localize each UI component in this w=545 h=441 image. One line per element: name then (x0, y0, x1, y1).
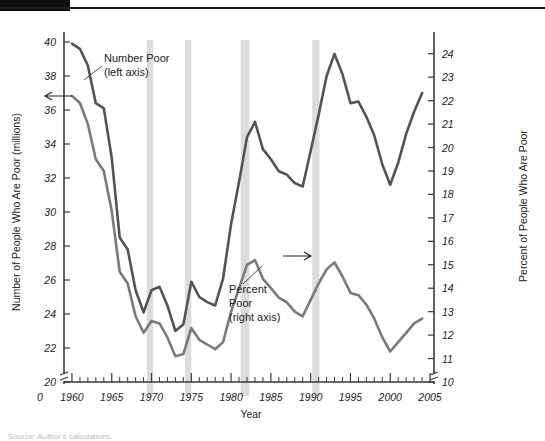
right-tick-label: 11 (442, 353, 453, 365)
right-tick-label: 14 (442, 282, 454, 294)
right-tick-label: 10 (442, 376, 454, 388)
poverty-chart-figure: 2022242628303234363840101112131415161718… (0, 0, 545, 441)
x-tick-label: 1990 (299, 391, 323, 403)
x-tick-label: 2005 (417, 391, 442, 403)
annotation-percent-poor-line2: Poor (229, 297, 253, 309)
y-axis-title: Number of People Who Are Poor (millions) (10, 113, 22, 311)
left-tick-label: 28 (43, 240, 56, 252)
right-tick-label: 15 (442, 259, 454, 271)
y2-axis-title: Percent of People Who Are Poor (517, 130, 529, 282)
left-axis-arrow-icon (45, 92, 72, 100)
right-tick-label: 13 (442, 306, 454, 318)
poverty-line-chart: 2022242628303234363840101112131415161718… (0, 0, 545, 441)
right-tick-label: 12 (442, 329, 454, 341)
right-tick-label: 17 (442, 212, 455, 224)
right-tick-label: 16 (442, 235, 454, 247)
annotation-percent-poor-line1: Percent (229, 283, 267, 295)
recession-band-2 (241, 40, 250, 396)
right-axis-arrow-icon (283, 252, 311, 260)
right-tick-label: 21 (441, 118, 454, 130)
annotation-percent-poor-line3: (right axis) (229, 311, 280, 323)
recession-band-0 (147, 40, 153, 396)
source-note-clipped: Source: Author's calculations. (8, 432, 368, 439)
x-tick-label: 2000 (378, 391, 403, 403)
x-tick-label: 1965 (100, 391, 124, 403)
left-tick-label: 36 (44, 104, 56, 116)
right-tick-label: 20 (441, 142, 454, 154)
left-tick-label: 32 (44, 172, 56, 184)
annotation-number-poor-line2: (left axis) (104, 66, 149, 78)
left-tick-label: 22 (43, 342, 56, 354)
left-tick-label: 38 (44, 70, 56, 82)
right-tick-label: 23 (441, 71, 454, 83)
x-tick-label: 1970 (140, 391, 164, 403)
x-origin-label: 0 (37, 391, 43, 403)
right-tick-label: 24 (441, 48, 454, 60)
right-tick-label: 19 (442, 165, 454, 177)
recession-band-3 (312, 40, 319, 396)
left-tick-label: 30 (44, 206, 56, 218)
right-tick-label: 18 (442, 188, 454, 200)
left-tick-label: 20 (43, 376, 56, 388)
x-axis-title: Year (240, 408, 262, 420)
axis-break-symbol (430, 372, 438, 380)
right-tick-label: 22 (441, 95, 454, 107)
left-tick-label: 40 (44, 36, 56, 48)
left-tick-label: 26 (43, 274, 56, 286)
x-tick-label: 1975 (180, 391, 204, 403)
x-tick-label: 1985 (259, 391, 283, 403)
left-tick-label: 24 (43, 308, 56, 320)
x-tick-label: 1960 (60, 391, 84, 403)
annotation-number-poor-line1: Number Poor (104, 52, 170, 64)
annotation-number-poor-leader (84, 66, 102, 80)
left-tick-label: 34 (44, 138, 56, 150)
x-tick-label: 1980 (219, 391, 243, 403)
x-tick-label: 1995 (339, 391, 363, 403)
axis-break-symbol (60, 372, 68, 380)
